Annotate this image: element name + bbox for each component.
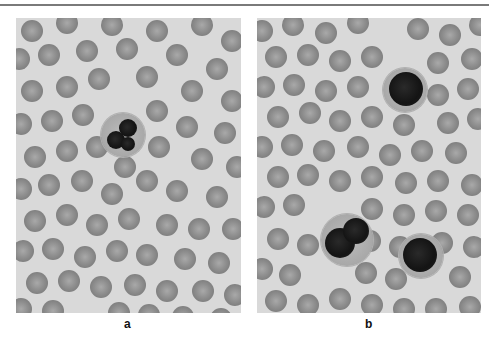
red-blood-cell	[257, 76, 275, 98]
red-blood-cell	[138, 304, 160, 313]
nucleus-lobe	[343, 218, 369, 244]
red-blood-cell	[106, 240, 128, 262]
red-blood-cell	[297, 164, 319, 186]
red-blood-cell	[226, 156, 241, 178]
red-blood-cell	[265, 46, 287, 68]
red-blood-cell	[385, 268, 407, 290]
red-blood-cell	[221, 90, 241, 112]
red-blood-cell	[16, 240, 34, 262]
red-blood-cell	[16, 48, 30, 70]
red-blood-cell	[56, 140, 78, 162]
red-blood-cell	[463, 236, 481, 258]
red-blood-cell	[156, 214, 178, 236]
red-blood-cell	[90, 276, 112, 298]
white-blood-cell	[399, 234, 443, 278]
red-blood-cell	[267, 106, 289, 128]
red-blood-cell	[425, 200, 447, 222]
red-blood-cell	[146, 20, 168, 42]
red-blood-cell	[459, 296, 481, 313]
red-blood-cell	[347, 76, 369, 98]
red-blood-cell	[313, 140, 335, 162]
red-blood-cell	[282, 18, 304, 36]
red-blood-cell	[257, 196, 275, 218]
red-blood-cell	[425, 298, 447, 313]
red-blood-cell	[427, 84, 449, 106]
red-blood-cell	[56, 204, 78, 226]
red-blood-cell	[118, 208, 140, 230]
red-blood-cell	[42, 238, 64, 260]
red-blood-cell	[265, 290, 287, 312]
red-blood-cell	[361, 198, 383, 220]
red-blood-cell	[279, 264, 301, 286]
red-blood-cell	[24, 210, 46, 232]
red-blood-cell	[148, 136, 170, 158]
red-blood-cell	[206, 186, 228, 208]
red-blood-cell	[191, 148, 213, 170]
red-blood-cell	[283, 194, 305, 216]
panel-label-a: a	[124, 317, 131, 331]
red-blood-cell	[469, 18, 481, 36]
red-blood-cell	[461, 48, 481, 70]
red-blood-cell	[427, 170, 449, 192]
white-blood-cell	[101, 113, 145, 157]
red-blood-cell	[427, 52, 449, 74]
red-blood-cell	[315, 22, 337, 44]
red-blood-cell	[172, 306, 194, 313]
red-blood-cell	[208, 252, 230, 274]
panel-label-b: b	[365, 317, 372, 331]
red-blood-cell	[393, 298, 415, 313]
red-blood-cell	[42, 300, 64, 313]
red-blood-cell	[267, 228, 289, 250]
red-blood-cell	[21, 20, 43, 42]
red-blood-cell	[361, 166, 383, 188]
red-blood-cell	[347, 136, 369, 158]
red-blood-cell	[281, 134, 303, 156]
red-blood-cell	[257, 258, 273, 280]
red-blood-cell	[437, 112, 459, 134]
red-blood-cell	[136, 244, 158, 266]
red-blood-cell	[393, 114, 415, 136]
red-blood-cell	[108, 302, 130, 313]
red-blood-cell	[407, 18, 429, 40]
red-blood-cell	[16, 178, 32, 200]
red-blood-cell	[21, 80, 43, 102]
top-rule	[0, 4, 489, 6]
red-blood-cell	[355, 262, 377, 284]
red-blood-cell	[58, 270, 80, 292]
red-blood-cell	[222, 218, 241, 240]
red-blood-cell	[299, 102, 321, 124]
red-blood-cell	[467, 108, 481, 130]
white-blood-cell	[321, 214, 373, 266]
red-blood-cell	[379, 144, 401, 166]
red-blood-cell	[457, 78, 479, 100]
red-blood-cell	[361, 106, 383, 128]
red-blood-cell	[210, 308, 232, 313]
red-blood-cell	[26, 272, 48, 294]
nucleus-lobe	[121, 137, 135, 151]
red-blood-cell	[16, 298, 32, 313]
red-blood-cell	[221, 30, 241, 52]
red-blood-cell	[166, 180, 188, 202]
red-blood-cell	[283, 74, 305, 96]
red-blood-cell	[72, 104, 94, 126]
red-blood-cell	[395, 172, 417, 194]
red-blood-cell	[176, 116, 198, 138]
red-blood-cell	[329, 50, 351, 72]
red-blood-cell	[101, 18, 123, 36]
red-blood-cell	[56, 18, 78, 34]
red-blood-cell	[71, 170, 93, 192]
red-blood-cell	[361, 294, 383, 313]
red-blood-cell	[297, 44, 319, 66]
red-blood-cell	[297, 294, 319, 313]
red-blood-cell	[156, 280, 178, 302]
red-blood-cell	[393, 204, 415, 226]
red-blood-cell	[136, 66, 158, 88]
red-blood-cell	[74, 246, 96, 268]
red-blood-cell	[445, 142, 467, 164]
red-blood-cell	[114, 156, 136, 178]
red-blood-cell	[347, 18, 369, 34]
red-blood-cell	[206, 58, 228, 80]
red-blood-cell	[361, 46, 383, 68]
red-blood-cell	[214, 122, 236, 144]
red-blood-cell	[56, 76, 78, 98]
